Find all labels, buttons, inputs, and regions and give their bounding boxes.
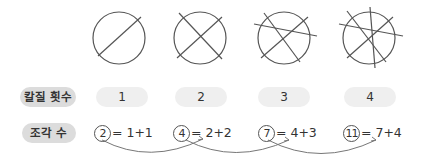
circled-count: 11 (343, 125, 360, 142)
cuts-value-4: 4 (344, 87, 396, 107)
pieces-value-2: 4= 2+2 (173, 124, 232, 142)
pieces-row-label: 조각 수 (22, 123, 76, 143)
cuts-row-label: 칼질 횟수 (20, 87, 76, 107)
pieces-value-3: 7= 4+3 (258, 124, 317, 142)
pieces-expr: = 1+1 (112, 125, 153, 140)
pieces-value-4: 11= 7+4 (343, 124, 402, 142)
pieces-expr: = 4+3 (276, 125, 317, 140)
pieces-value-1: 2= 1+1 (94, 124, 153, 142)
pieces-expr: = 2+2 (191, 125, 232, 140)
circle-3-cuts (254, 12, 317, 64)
circled-count: 7 (258, 125, 275, 142)
cuts-value-1: 1 (96, 87, 148, 107)
cuts-value-3: 3 (258, 87, 310, 107)
pieces-expr: = 7+4 (361, 125, 402, 140)
circled-count: 4 (173, 125, 190, 142)
cuts-value-2: 2 (175, 87, 227, 107)
circle-4-cuts (339, 7, 403, 68)
circle-2-cuts (174, 12, 226, 64)
circle-1-cut (93, 12, 145, 64)
circled-count: 2 (94, 125, 111, 142)
